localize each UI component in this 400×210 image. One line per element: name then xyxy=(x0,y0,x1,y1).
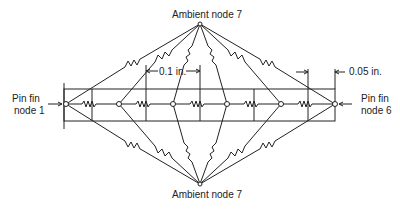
pin-fin-node1-label-line1: Pin fin xyxy=(12,93,40,104)
dimension-label-0-05: 0.05 in. xyxy=(349,66,382,77)
ambient-node-bottom-label: Ambient node 7 xyxy=(172,189,242,200)
resistance-network-diagram xyxy=(0,0,400,210)
pin-fin-node6-label-line1: Pin fin xyxy=(361,93,389,104)
ambient-node-top-label: Ambient node 7 xyxy=(172,9,242,20)
dimension-0-05-in xyxy=(296,69,345,89)
pin-fin-node6-label-line2: node 6 xyxy=(361,105,392,116)
dimension-label-0-1: 0.1 in. xyxy=(159,66,186,77)
pin-fin-node1-label-line2: node 1 xyxy=(14,105,45,116)
